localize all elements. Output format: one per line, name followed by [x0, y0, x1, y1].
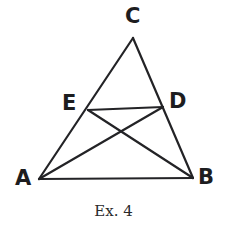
geometry-figure: C E D A B Ex. 4: [0, 0, 227, 237]
figure-caption: Ex. 4: [0, 203, 227, 220]
segment-ED: [88, 107, 163, 110]
vertex-label-E: E: [62, 93, 76, 114]
vertex-label-A: A: [15, 168, 31, 189]
vertex-label-C: C: [125, 6, 140, 27]
side-AB: [39, 178, 193, 179]
vertex-label-D: D: [169, 91, 186, 112]
vertex-label-B: B: [198, 167, 214, 188]
